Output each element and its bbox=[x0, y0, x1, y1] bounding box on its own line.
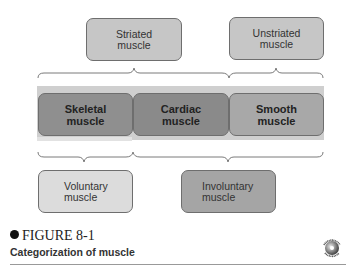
divider-line bbox=[10, 264, 346, 265]
figure-label: FIGURE 8-1 bbox=[10, 228, 95, 244]
involuntary-muscle-label: Involuntary muscle bbox=[202, 181, 253, 203]
involuntary-muscle-box: Involuntary muscle bbox=[181, 170, 276, 213]
band-highlight bbox=[37, 137, 132, 141]
figure-caption: Categorization of muscle bbox=[10, 246, 135, 258]
cardiac-muscle-label: Cardiac muscle bbox=[161, 103, 201, 127]
voluntary-brace bbox=[38, 152, 133, 162]
skeletal-muscle-box: Skeletal muscle bbox=[38, 93, 133, 136]
figure-number: FIGURE 8-1 bbox=[22, 228, 95, 243]
skeletal-muscle-label: Skeletal muscle bbox=[65, 103, 107, 127]
involuntary-brace bbox=[133, 152, 323, 162]
striated-brace bbox=[38, 68, 229, 78]
voluntary-muscle-box: Voluntary muscle bbox=[38, 170, 133, 213]
voluntary-muscle-label: Voluntary muscle bbox=[64, 181, 108, 203]
smooth-muscle-label: Smooth muscle bbox=[256, 103, 297, 127]
unstriated-brace bbox=[229, 68, 323, 78]
cardiac-muscle-box: Cardiac muscle bbox=[133, 93, 229, 136]
smooth-muscle-box: Smooth muscle bbox=[229, 93, 324, 136]
physioedge-activity-icon bbox=[321, 237, 343, 259]
bullet-icon bbox=[10, 230, 19, 239]
